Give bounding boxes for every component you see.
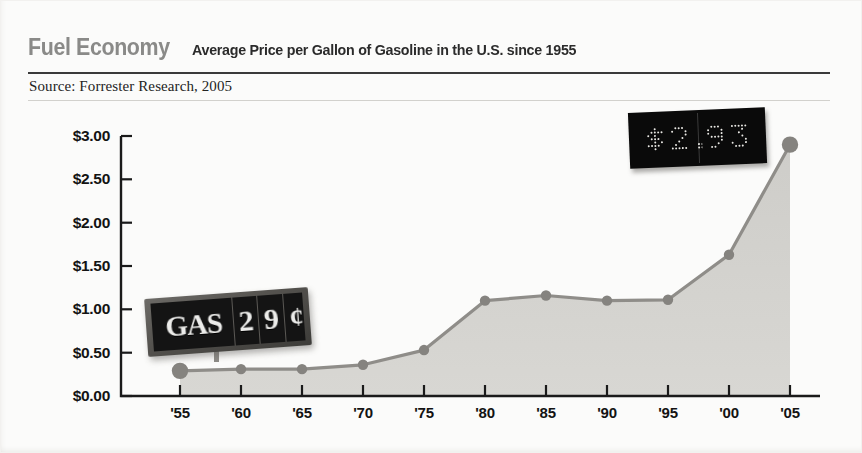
y-axis-tick-label: $1.00 — [36, 300, 110, 318]
y-axis-tick-label: $0.00 — [36, 387, 110, 405]
y-axis-tick-label: $2.00 — [36, 214, 110, 232]
gas-sign-cell: ¢ — [283, 292, 311, 342]
area-fill — [180, 145, 790, 396]
gas-sign-cell: GAS — [150, 298, 235, 352]
chart-page: Fuel Economy Average Price per Gallon of… — [0, 0, 862, 453]
led-digit — [730, 124, 748, 148]
gas-sign-face: GAS29¢ — [150, 292, 305, 351]
led-price-display — [628, 107, 767, 169]
x-axis-tick-label: '00 — [719, 404, 738, 421]
x-axis-tick-label: '95 — [658, 404, 677, 421]
x-axis-tick-label: '75 — [414, 404, 433, 421]
x-axis-tick-label: '90 — [597, 404, 616, 421]
y-axis-tick-label: $2.50 — [36, 170, 110, 188]
x-axis-tick-label: '70 — [353, 404, 372, 421]
gas-sign-cell: 9 — [258, 294, 287, 344]
gas-station-price-sign: GAS29¢ — [144, 287, 312, 357]
gas-sign-cell: 2 — [232, 296, 261, 346]
y-axis-tick-label: $1.50 — [36, 257, 110, 275]
x-axis-tick-label: '80 — [475, 404, 494, 421]
x-axis-tick-label: '65 — [292, 404, 311, 421]
x-axis-tick-label: '55 — [170, 404, 189, 421]
x-axis-tick-label: '60 — [231, 404, 250, 421]
led-digit — [707, 125, 725, 149]
led-digit — [693, 126, 702, 150]
led-digit — [671, 127, 689, 151]
x-axis-tick-label: '05 — [780, 404, 799, 421]
y-axis-tick-label: $3.00 — [36, 127, 110, 145]
led-digit — [647, 128, 665, 152]
line-chart-plot — [0, 0, 862, 453]
y-axis-tick-label: $0.50 — [36, 344, 110, 362]
x-axis-tick-label: '85 — [536, 404, 555, 421]
